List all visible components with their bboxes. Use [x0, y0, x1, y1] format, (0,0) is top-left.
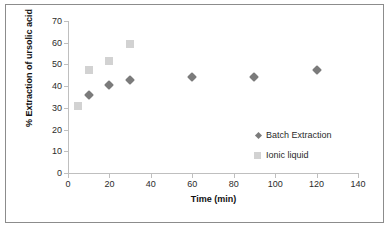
data-point-diamond: [84, 90, 94, 100]
y-tick-label: 40: [40, 82, 62, 91]
x-tick-mark: [192, 174, 193, 178]
x-tick-label: 0: [53, 180, 83, 189]
data-point-diamond: [125, 75, 135, 85]
x-axis-title: Time (min): [68, 194, 359, 204]
data-point-square: [105, 57, 113, 65]
data-point-diamond: [104, 80, 114, 90]
y-tick-label: 0: [40, 169, 62, 178]
data-point-diamond: [187, 73, 197, 83]
x-tick-label: 40: [136, 180, 166, 189]
diamond-marker-icon: [253, 129, 266, 142]
data-point-square: [85, 66, 93, 74]
x-tick-mark: [68, 174, 69, 178]
square-marker-icon: [253, 149, 266, 162]
x-tick-mark: [317, 174, 318, 178]
x-tick-mark: [109, 174, 110, 178]
y-tick-label: 50: [40, 60, 62, 69]
legend-label: Ionic liquid: [266, 150, 309, 160]
x-tick-mark: [275, 174, 276, 178]
y-tick-label: 20: [40, 126, 62, 135]
data-point-square: [74, 102, 82, 110]
x-tick-label: 80: [219, 180, 249, 189]
y-tick-label: 60: [40, 39, 62, 48]
x-tick-label: 120: [302, 180, 332, 189]
chart-frame: 010203040506070 020406080100120140 % Ext…: [5, 4, 384, 223]
y-tick-label: 30: [40, 104, 62, 113]
chart-figure: 010203040506070 020406080100120140 % Ext…: [0, 0, 389, 228]
data-point-diamond: [312, 65, 322, 75]
x-tick-label: 140: [343, 180, 373, 189]
y-tick-label: 10: [40, 147, 62, 156]
legend-label: Batch Extraction: [266, 130, 332, 140]
y-tick-label: 70: [40, 17, 62, 26]
x-tick-label: 20: [94, 180, 124, 189]
x-tick-mark: [151, 174, 152, 178]
x-tick-label: 60: [177, 180, 207, 189]
data-point-square: [126, 40, 134, 48]
y-axis-title: % Extraction of ursolic acid: [24, 0, 34, 153]
legend-item-ionic-liquid: Ionic liquid: [253, 147, 373, 163]
legend-item-batch-extraction: Batch Extraction: [253, 127, 373, 143]
x-axis-line: [68, 173, 359, 174]
data-point-diamond: [249, 73, 259, 83]
chart-legend: Batch Extraction Ionic liquid: [253, 127, 373, 167]
x-tick-label: 100: [260, 180, 290, 189]
y-axis-tick-labels: 010203040506070: [36, 5, 62, 228]
x-tick-mark: [358, 174, 359, 178]
x-tick-mark: [234, 174, 235, 178]
